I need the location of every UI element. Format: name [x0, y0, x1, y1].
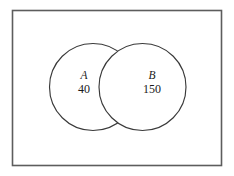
set-a-label: A — [79, 69, 88, 81]
set-b-count: 150 — [143, 82, 161, 96]
venn-diagram-figure: A 40 B 150 — [0, 0, 234, 176]
venn-diagram-canvas: A 40 B 150 — [0, 0, 234, 176]
set-b-label: B — [148, 69, 155, 81]
set-a-count: 40 — [78, 82, 90, 96]
